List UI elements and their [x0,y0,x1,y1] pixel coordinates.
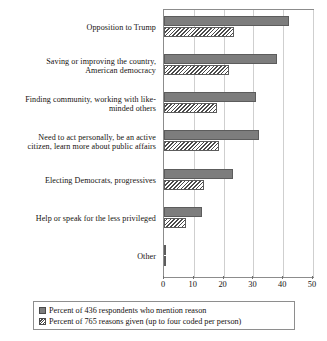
x-tick [282,276,283,279]
category-label-line: Electing Democrats, progressives [0,176,156,186]
solid-gray-swatch-icon [39,307,46,314]
bar-respondents [164,130,259,140]
bar-respondents [164,169,233,179]
category-label: Need to act personally, be an activeciti… [0,133,156,152]
bar-respondents [164,54,277,64]
bar-reasons [164,256,166,266]
x-tick [252,276,253,279]
x-tick-label: 40 [270,280,294,289]
bar-group [164,239,313,277]
gridline [313,10,314,277]
category-label: Finding community, working with like-min… [0,95,156,114]
bar-group [164,124,313,162]
bar-respondents [164,92,256,102]
x-tick [312,276,313,279]
x-tick-label: 50 [300,280,324,289]
category-label-line: Need to act personally, be an active [0,133,156,143]
legend-item-reasons: Percent of 765 reasons given (up to four… [39,316,289,328]
bar-reasons [164,218,186,228]
plot-area [163,9,314,278]
bar-reasons [164,65,229,75]
category-label: Saving or improving the country,American… [0,57,156,76]
category-label-line: Finding community, working with like- [0,95,156,105]
bar-respondents [164,245,166,255]
bar-group [164,48,313,86]
x-tick-label: 20 [211,280,235,289]
bar-group [164,86,313,124]
bar-group [164,10,313,48]
legend-item-label: Percent of 765 reasons given (up to four… [49,317,241,326]
legend-item-label: Percent of 436 respondents who mention r… [49,306,206,315]
category-label-line: American democracy [0,66,156,76]
category-label-line: Saving or improving the country, [0,57,156,67]
bar-group [164,201,313,239]
category-label: Other [0,252,156,262]
hatched-swatch-icon [39,318,46,325]
x-axis: 01020304050 [163,276,313,294]
category-label-line: Help or speak for the less privileged [0,214,156,224]
bar-group [164,163,313,201]
x-tick [223,276,224,279]
category-label-line: citizen, learn more about public affairs [0,142,156,152]
category-label: Opposition to Trump [0,23,156,33]
x-tick [193,276,194,279]
bar-reasons [164,27,234,37]
bar-chart-figure: Opposition to TrumpSaving or improving t… [0,0,327,341]
chart-legend: Percent of 436 respondents who mention r… [33,301,295,330]
bar-reasons [164,180,204,190]
category-label-line: Other [0,252,156,262]
category-axis-labels: Opposition to TrumpSaving or improving t… [0,9,160,276]
category-label: Electing Democrats, progressives [0,176,156,186]
x-tick-label: 30 [240,280,264,289]
bar-respondents [164,207,202,217]
x-tick-label: 0 [151,280,175,289]
bar-reasons [164,103,217,113]
legend-item-respondents: Percent of 436 respondents who mention r… [39,305,289,317]
category-label: Help or speak for the less privileged [0,214,156,224]
category-label-line: minded others [0,104,156,114]
x-tick-label: 10 [181,280,205,289]
bar-respondents [164,16,289,26]
bar-reasons [164,141,219,151]
x-tick [163,276,164,279]
category-label-line: Opposition to Trump [0,23,156,33]
